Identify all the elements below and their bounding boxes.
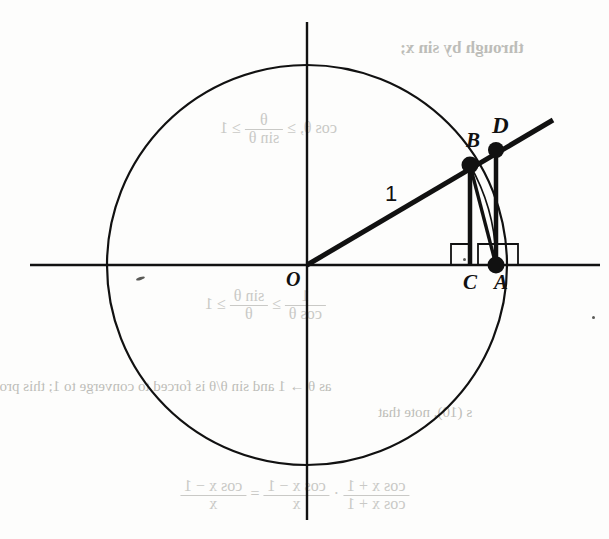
label-radius-length: 1: [385, 181, 397, 207]
label-point-c: C: [463, 270, 477, 295]
label-point-origin: O: [286, 268, 300, 291]
chord-ba: [470, 165, 496, 265]
point-d-dot: [488, 142, 504, 158]
label-point-b: B: [466, 128, 480, 153]
label-point-a: A: [494, 270, 508, 295]
label-point-d: D: [492, 113, 509, 139]
point-b-dot: [462, 157, 479, 174]
right-angle-mark-c: [451, 244, 470, 265]
unit-circle-figure: [0, 0, 609, 539]
scanned-page: through by sin x; cos θ, ≥ θ sin θ ≥ 1 1…: [0, 0, 609, 539]
